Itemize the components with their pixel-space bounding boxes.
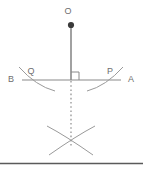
geometry-figure: O B Q P A bbox=[0, 0, 143, 170]
label-p: P bbox=[107, 66, 113, 76]
label-o: O bbox=[64, 6, 71, 16]
diagram-canvas: O B Q P A bbox=[0, 0, 143, 170]
compass-arc-left-through-q bbox=[19, 67, 55, 91]
compass-arc-right-through-p bbox=[87, 67, 123, 91]
label-a: A bbox=[128, 74, 134, 84]
point-o-dot bbox=[68, 22, 74, 28]
right-angle-marker bbox=[71, 72, 79, 80]
label-q: Q bbox=[27, 66, 34, 76]
label-b: B bbox=[8, 74, 14, 84]
